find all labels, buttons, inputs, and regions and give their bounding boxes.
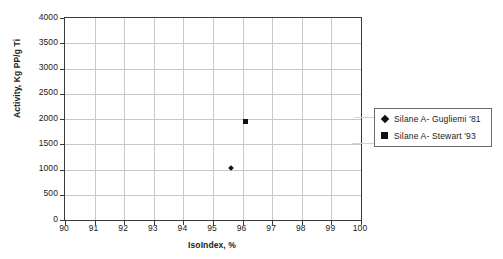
- gridline-vertical: [154, 18, 155, 220]
- y-axis-tick-label: 500: [14, 189, 58, 198]
- y-axis-tick-mark: [60, 144, 64, 145]
- y-axis-tick-label: 1000: [14, 164, 58, 173]
- y-axis-tick-mark: [60, 220, 64, 221]
- y-axis-tick-label: 0: [14, 215, 58, 224]
- y-axis-tick-mark: [60, 170, 64, 171]
- y-axis-tick-label: 2500: [14, 88, 58, 97]
- x-axis-tick-label: 100: [340, 224, 380, 233]
- chart-legend: Silane A- Gugliemi '81Silane A- Stewart …: [374, 108, 492, 147]
- y-axis-tick-mark: [60, 69, 64, 70]
- y-axis-tick-mark: [60, 119, 64, 120]
- gridline-vertical: [331, 18, 332, 220]
- legend-item: Silane A- Stewart '93: [380, 130, 476, 142]
- legend-item-label: Silane A- Stewart '93: [394, 131, 476, 141]
- gridline-vertical: [124, 18, 125, 220]
- y-axis-tick-mark: [60, 195, 64, 196]
- y-axis-tick-mark: [60, 18, 64, 19]
- y-axis-tick-label: 2000: [14, 114, 58, 123]
- y-axis-tick-labels: 05001000150020002500300035004000: [8, 17, 58, 219]
- plot-area: [64, 17, 362, 221]
- gridline-vertical: [302, 18, 303, 220]
- y-axis-tick-label: 3000: [14, 63, 58, 72]
- y-axis-tick-mark: [60, 94, 64, 95]
- y-axis-tick-label: 1500: [14, 139, 58, 148]
- diamond-marker-icon: [380, 114, 390, 124]
- gridline-vertical: [183, 18, 184, 220]
- gridline-vertical: [272, 18, 273, 220]
- x-axis-tick-labels: 90919293949596979899100: [64, 224, 360, 236]
- legend-item: Silane A- Gugliemi '81: [380, 113, 481, 125]
- data-point-square: [243, 119, 248, 124]
- scan-artifact-line: [355, 117, 375, 118]
- legend-item-label: Silane A- Gugliemi '81: [394, 114, 481, 124]
- y-axis-tick-label: 3500: [14, 38, 58, 47]
- gridline-vertical: [95, 18, 96, 220]
- chart-figure: Activity, Kg PP/g Ti 0500100015002000250…: [0, 0, 503, 259]
- square-marker-icon: [380, 131, 390, 141]
- scan-artifact-line: [352, 143, 375, 144]
- x-axis-title: IsoIndex, %: [64, 240, 360, 250]
- y-axis-tick-label: 4000: [14, 13, 58, 22]
- gridline-vertical: [213, 18, 214, 220]
- y-axis-tick-mark: [60, 43, 64, 44]
